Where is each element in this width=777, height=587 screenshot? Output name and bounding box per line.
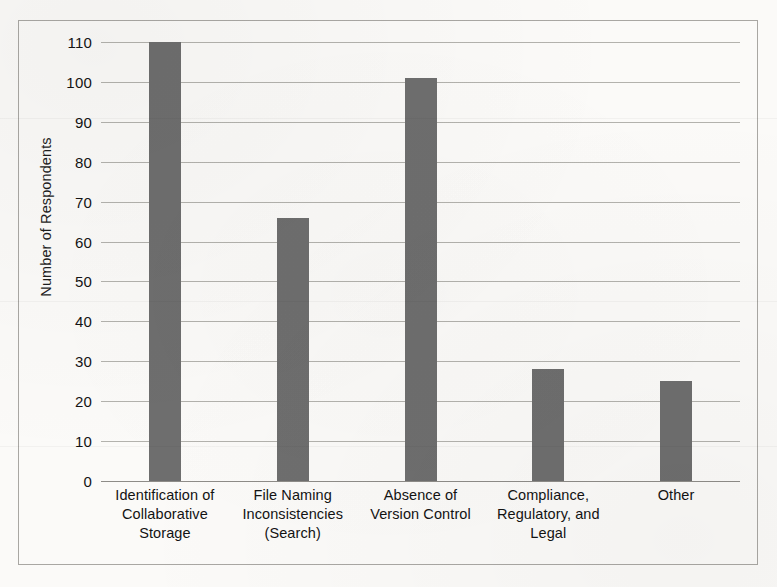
gridline — [101, 481, 740, 482]
y-axis-tick-label: 40 — [75, 313, 92, 330]
x-axis-category-label-line: Identification of — [101, 486, 229, 505]
x-axis-category-label-line: Version Control — [357, 505, 485, 524]
plot-area: 1101009080706050403020100 — [101, 42, 740, 481]
x-axis-category-label-line: Compliance, — [484, 486, 612, 505]
x-axis-category-label-line: Absence of — [357, 486, 485, 505]
x-axis-category-label-line: Storage — [101, 524, 229, 543]
plot-frame: Number of Respondents 110100908070605040… — [18, 20, 758, 565]
y-axis-tick-label: 70 — [75, 193, 92, 210]
y-axis-tick-label: 100 — [66, 73, 92, 90]
x-axis-category-label: File NamingInconsistencies(Search) — [229, 486, 357, 543]
y-axis-tick-label: 80 — [75, 153, 92, 170]
x-axis-category-label-line: Collaborative — [101, 505, 229, 524]
y-axis-tick-label: 60 — [75, 233, 92, 250]
y-axis-tick-label: 50 — [75, 273, 92, 290]
x-axis-category-label-line: (Search) — [229, 524, 357, 543]
bar[interactable] — [532, 369, 564, 481]
x-axis-category-label: Other — [612, 486, 740, 505]
x-axis-category-label-line: File Naming — [229, 486, 357, 505]
x-axis-category-label-line: Legal — [484, 524, 612, 543]
bar[interactable] — [405, 78, 437, 481]
y-axis-title: Number of Respondents — [38, 7, 54, 427]
x-axis-category-label: Compliance,Regulatory, andLegal — [484, 486, 612, 543]
y-axis-tick-label: 110 — [67, 34, 92, 51]
y-axis-tick-label: 90 — [75, 113, 92, 130]
x-axis-category-label: Absence ofVersion Control — [357, 486, 485, 524]
y-axis-tick-label: 20 — [75, 393, 92, 410]
y-axis-tick-label: 30 — [75, 353, 92, 370]
x-axis-category-label-line: Regulatory, and — [484, 505, 612, 524]
y-axis-tick-label: 0 — [83, 473, 92, 490]
chart-figure: Number of Respondents 110100908070605040… — [0, 0, 777, 587]
bar[interactable] — [277, 218, 309, 481]
x-axis-category-label-line: Other — [612, 486, 740, 505]
x-axis-category-labels: Identification ofCollaborativeStorageFil… — [101, 486, 740, 566]
x-axis-category-label: Identification ofCollaborativeStorage — [101, 486, 229, 543]
bar[interactable] — [660, 381, 692, 481]
bar[interactable] — [149, 42, 181, 481]
y-axis-tick-label: 10 — [75, 433, 92, 450]
gridline — [101, 42, 740, 43]
x-axis-category-label-line: Inconsistencies — [229, 505, 357, 524]
